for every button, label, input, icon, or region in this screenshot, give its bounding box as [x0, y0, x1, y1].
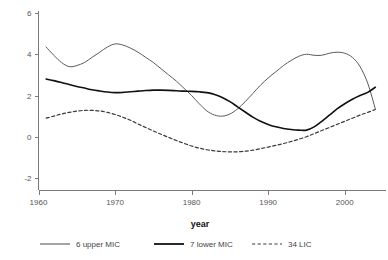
y-tick-label: 0: [27, 133, 32, 142]
legend-label-3: 34 LIC: [288, 240, 312, 249]
series-group: [46, 44, 375, 152]
legend-label-2: 7 lower MIC: [190, 240, 233, 249]
y-tick-label: 6: [27, 9, 32, 18]
x-tick-label: 1970: [106, 198, 124, 207]
x-tick-label: 1960: [30, 198, 48, 207]
series-line-7-lower-mic: [46, 79, 375, 130]
series-line-34-lic: [46, 110, 375, 152]
y-tick-label: 2: [27, 92, 32, 101]
x-tick-group: 19601970198019902000: [30, 191, 355, 208]
y-tick-group: 6420-2: [24, 9, 38, 183]
x-tick-label: 1990: [259, 198, 277, 207]
y-tick-label: -2: [24, 174, 32, 183]
chart-legend: 6 upper MIC7 lower MIC34 LIC: [40, 240, 312, 249]
series-line-6-upper-mic: [46, 44, 375, 116]
x-axis-title: year: [191, 219, 210, 229]
chart-container: 6420-2 19601970198019902000 year 6 upper…: [0, 0, 388, 260]
line-chart: 6420-2 19601970198019902000 year 6 upper…: [0, 0, 388, 260]
x-tick-label: 2000: [336, 198, 354, 207]
y-tick-label: 4: [27, 50, 32, 59]
x-tick-label: 1980: [183, 198, 201, 207]
legend-label-1: 6 upper MIC: [76, 240, 120, 249]
